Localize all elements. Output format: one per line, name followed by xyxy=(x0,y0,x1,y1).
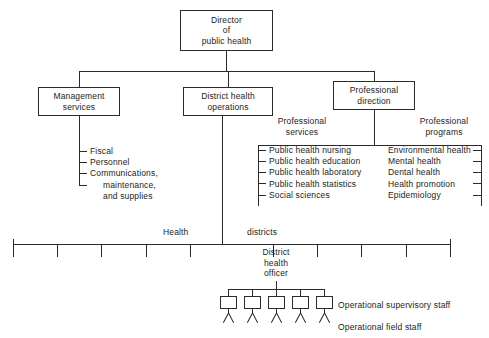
staff-figure-head xyxy=(268,296,285,309)
professional-programs-item: Epidemiology xyxy=(388,190,471,201)
label-districts: districts xyxy=(247,227,277,238)
district-tick xyxy=(317,244,318,257)
staff-figure-head xyxy=(244,296,261,309)
label-district-health-officer: District health officer xyxy=(248,247,304,279)
management-item: Communications, xyxy=(90,168,158,179)
management-line-1: Management xyxy=(53,91,104,102)
connector-supervisory-drop-1 xyxy=(228,289,229,296)
staff-figure-leg-right xyxy=(252,313,258,323)
district-tick xyxy=(361,244,362,257)
district-ops-line-1: District health xyxy=(201,91,255,102)
bracket-management-tick-3 xyxy=(79,173,87,174)
professional-programs-item: Mental health xyxy=(388,156,471,167)
professional-programs-item: Dental health xyxy=(388,167,471,178)
director-line-3: public health xyxy=(202,36,252,47)
professional-services-item: Public health nursing xyxy=(269,145,361,156)
staff-figure-leg-right xyxy=(276,313,282,323)
professional-services-item: Social sciences xyxy=(269,190,361,201)
district-officer-line-1: District xyxy=(248,247,304,258)
district-tick xyxy=(406,244,407,257)
connector-drop-prof-direction xyxy=(374,71,375,81)
prof-direction-line-1: Professional xyxy=(350,85,399,96)
staff-figure-leg-right xyxy=(300,313,306,323)
node-management-services[interactable]: Management services xyxy=(38,87,120,116)
bracket-prof-services-tick-3 xyxy=(258,172,266,173)
district-tick xyxy=(146,244,147,257)
management-item: Fiscal xyxy=(90,146,158,157)
staff-figure-head xyxy=(292,296,309,309)
bracket-management-tick-2 xyxy=(79,162,87,163)
staff-figure-head xyxy=(220,296,237,309)
connector-supervisory-drop-2 xyxy=(252,289,253,296)
professional-services-items: Public health nursing Public health educ… xyxy=(269,145,361,201)
bracket-prof-services-tick-2 xyxy=(258,161,266,162)
connector-management-stem xyxy=(79,116,80,151)
connector-prof-direction-stem xyxy=(374,110,375,145)
staff-figure xyxy=(292,296,309,324)
connector-supervisory-drop-4 xyxy=(300,289,301,296)
professional-programs-item: Health promotion xyxy=(388,179,471,190)
district-tick xyxy=(190,244,191,257)
connector-supervisory-drop-3 xyxy=(276,289,277,296)
staff-figure xyxy=(244,296,261,324)
staff-figure-leg-right xyxy=(324,313,330,323)
label-operational-field-staff: Operational field staff xyxy=(338,322,422,333)
heading-prof-programs-line-1: Professional xyxy=(408,116,480,127)
professional-programs-items: Environmental health Mental health Denta… xyxy=(388,145,471,201)
staff-figure xyxy=(220,296,237,324)
bracket-prof-services-tick-1 xyxy=(258,150,266,151)
district-tick xyxy=(57,244,58,257)
label-health: Health xyxy=(163,227,188,238)
management-services-items: Fiscal Personnel Communications, mainten… xyxy=(90,146,158,202)
node-professional-direction[interactable]: Professional direction xyxy=(333,81,415,110)
district-ops-line-2: operations xyxy=(207,102,248,113)
professional-programs-item: Environmental health xyxy=(388,145,471,156)
management-item-cont: maintenance, xyxy=(90,180,158,191)
professional-services-item: Public health laboratory xyxy=(269,167,361,178)
district-tick xyxy=(101,244,102,257)
heading-professional-programs: Professional programs xyxy=(408,116,480,137)
bracket-prof-programs-foot xyxy=(473,195,481,196)
connector-district-ops-to-districts xyxy=(222,116,223,244)
prof-direction-line-2: direction xyxy=(357,96,390,107)
node-director-of-public-health[interactable]: Director of public health xyxy=(180,10,273,51)
bracket-prof-services-spine xyxy=(258,150,259,206)
management-item-cont: and supplies xyxy=(90,191,158,202)
bracket-prof-services-tick-4 xyxy=(258,183,266,184)
connector-drop-district-ops xyxy=(228,71,229,87)
staff-figure-head xyxy=(316,296,333,309)
heading-prof-services-line-1: Professional xyxy=(266,116,338,127)
health-districts-bar xyxy=(13,244,451,245)
district-tick xyxy=(13,244,14,257)
label-operational-supervisory-staff: Operational supervisory staff xyxy=(338,300,450,311)
bracket-prof-services-foot xyxy=(258,195,266,196)
bracket-management-foot xyxy=(79,185,87,186)
org-chart: Director of public health Management ser… xyxy=(0,0,489,338)
node-district-health-operations[interactable]: District health operations xyxy=(183,87,273,116)
bracket-management-tick-1 xyxy=(79,151,87,152)
professional-services-item: Public health statistics xyxy=(269,179,361,190)
district-tick xyxy=(450,244,451,257)
district-officer-line-3: officer xyxy=(248,268,304,279)
district-officer-line-2: health xyxy=(248,258,304,269)
connector-level2-bar xyxy=(79,71,375,72)
bracket-management-spine xyxy=(79,151,80,185)
bracket-prof-programs-tick-4 xyxy=(473,183,481,184)
staff-figure xyxy=(316,296,333,324)
director-line-1: Director xyxy=(211,15,242,26)
management-line-2: services xyxy=(63,102,95,113)
director-line-2: of xyxy=(223,25,230,36)
connector-supervisory-drop-5 xyxy=(324,289,325,296)
staff-figure-leg-right xyxy=(228,313,234,323)
bracket-prof-programs-tick-3 xyxy=(473,172,481,173)
professional-services-item: Public health education xyxy=(269,156,361,167)
connector-drop-management xyxy=(79,71,80,87)
management-item: Personnel xyxy=(90,157,158,168)
bracket-prof-programs-tick-1 xyxy=(473,150,481,151)
connector-director-stem xyxy=(226,51,227,71)
bracket-prof-programs-tick-2 xyxy=(473,161,481,162)
heading-prof-services-line-2: services xyxy=(266,127,338,138)
heading-professional-services: Professional services xyxy=(266,116,338,137)
staff-figure xyxy=(268,296,285,324)
bracket-prof-programs-spine xyxy=(481,150,482,206)
